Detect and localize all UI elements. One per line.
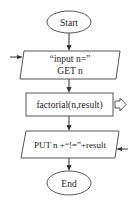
call-arrow-icon (115, 98, 126, 111)
input-arrow-icon (10, 55, 23, 59)
arrow-input-to-process (67, 79, 72, 93)
input-prompt-label: “input n=” (50, 54, 90, 64)
process-label: factorial(n,result) (36, 100, 102, 111)
flowchart: Start “input n=” GET n factorial(n,resul… (0, 0, 136, 208)
output-arrow-icon (116, 147, 128, 151)
end-label: End (61, 179, 77, 189)
arrow-output-to-end (67, 158, 72, 171)
output-node: PUT n +“!=”+result (21, 131, 128, 158)
output-label: PUT n +“!=”+result (34, 140, 107, 150)
start-node: Start (47, 11, 91, 33)
arrow-process-to-output (67, 116, 72, 131)
input-node: “input n=” GET n (10, 51, 120, 79)
start-label: Start (60, 18, 78, 28)
arrow-start-to-input (67, 33, 72, 51)
end-node: End (47, 171, 91, 195)
process-node: factorial(n,result) (26, 93, 126, 116)
input-get-label: GET n (57, 66, 83, 76)
